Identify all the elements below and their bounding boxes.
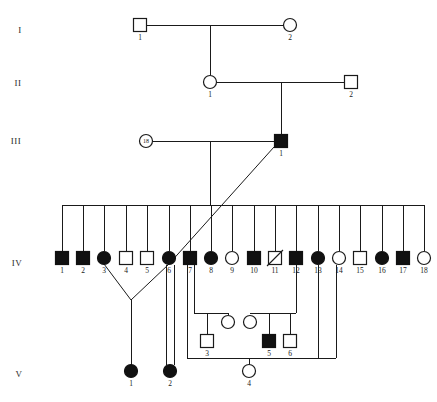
unaffected-male-symbol xyxy=(134,19,147,32)
affected-female-symbol xyxy=(98,252,111,265)
union-iv6-apex xyxy=(131,264,169,300)
individual-id-label: 1 xyxy=(129,379,133,388)
unaffected-male-symbol xyxy=(120,252,133,265)
individual-i-1[interactable]: 1 xyxy=(134,19,147,42)
affected-male-symbol xyxy=(397,252,410,265)
affected-male-symbol xyxy=(263,335,276,348)
individual-ii-2[interactable]: 2 xyxy=(345,76,358,99)
individual-iv-8[interactable]: 8 xyxy=(205,252,218,275)
affected-male-symbol xyxy=(248,252,261,265)
individual-iv-7[interactable]: 7 xyxy=(184,252,197,275)
unaffected-female-symbol xyxy=(243,365,256,378)
individual-id-label: 5 xyxy=(267,349,271,358)
affected-male-symbol xyxy=(184,252,197,265)
individual-id-label: 3 xyxy=(205,349,209,358)
individual-id-label: 16 xyxy=(378,266,386,275)
affected-female-symbol xyxy=(312,252,325,265)
individual-iv-13[interactable]: 13 xyxy=(312,252,325,275)
individual-symbols: 1212181123456789101112131415161718356124 xyxy=(56,19,431,388)
generation-labels: IIIIIIIVV xyxy=(11,25,23,379)
individual-id-label: 4 xyxy=(247,379,251,388)
individual-id-label: 12 xyxy=(292,266,300,275)
individual-iii-1[interactable]: 1 xyxy=(275,135,288,158)
individual-x-6[interactable]: 6 xyxy=(284,335,297,358)
individual-iv-18[interactable]: 18 xyxy=(418,252,431,275)
connection-lines xyxy=(62,25,424,365)
unaffected-female-symbol xyxy=(418,252,431,265)
individual-v-4[interactable]: 4 xyxy=(243,365,256,388)
individual-id-label: 2 xyxy=(288,33,292,42)
individual-i-2[interactable]: 2 xyxy=(284,19,297,42)
individual-id-label: 14 xyxy=(335,266,343,275)
individual-id-label: 5 xyxy=(145,266,149,275)
affected-female-symbol xyxy=(163,252,176,265)
unaffected-female-symbol xyxy=(204,76,217,89)
individual-id-label: 1 xyxy=(138,33,142,42)
unaffected-male-symbol xyxy=(354,252,367,265)
generation-label-i: I xyxy=(18,25,22,35)
individual-iv-2[interactable]: 2 xyxy=(77,252,90,275)
affected-male-symbol xyxy=(275,135,288,148)
affected-male-symbol xyxy=(56,252,69,265)
individual-x-s2[interactable] xyxy=(244,316,257,329)
individual-iv-17[interactable]: 17 xyxy=(397,252,410,275)
affected-female-symbol xyxy=(125,365,138,378)
individual-id-label: 1 xyxy=(60,266,64,275)
individual-id-label: 9 xyxy=(230,266,234,275)
generation-label-iv: IV xyxy=(12,258,23,268)
individual-iv-10[interactable]: 10 xyxy=(248,252,261,275)
individual-id-label: 6 xyxy=(167,266,171,275)
individual-x-3[interactable]: 3 xyxy=(201,335,214,358)
individual-v-1[interactable]: 1 xyxy=(125,365,138,388)
individual-id-label: 15 xyxy=(356,266,364,275)
individual-id-label: 1 xyxy=(208,90,212,99)
individual-id-label: 6 xyxy=(288,349,292,358)
affected-male-symbol xyxy=(77,252,90,265)
pedigree-chart: 1212181123456789101112131415161718356124… xyxy=(0,0,437,402)
individual-id-label: 11 xyxy=(271,266,278,275)
unaffected-male-symbol xyxy=(141,252,154,265)
individual-iv-12[interactable]: 12 xyxy=(290,252,303,275)
individual-id-label: 2 xyxy=(349,90,353,99)
generation-label-v: V xyxy=(16,369,23,379)
unaffected-male-symbol xyxy=(284,335,297,348)
affected-female-symbol xyxy=(376,252,389,265)
individual-iv-5[interactable]: 5 xyxy=(141,252,154,275)
individual-id-label: 4 xyxy=(124,266,128,275)
individual-iv-16[interactable]: 16 xyxy=(376,252,389,275)
unaffected-female-symbol xyxy=(333,252,346,265)
individual-iv-4[interactable]: 4 xyxy=(120,252,133,275)
individual-id-label: 2 xyxy=(81,266,85,275)
affected-female-symbol xyxy=(164,365,177,378)
individual-id-label: 13 xyxy=(314,266,322,275)
unaffected-female-symbol xyxy=(226,252,239,265)
individual-id-label: 8 xyxy=(209,266,213,275)
individual-id-label: 3 xyxy=(102,266,106,275)
generation-label-iii: III xyxy=(11,136,22,146)
individual-v-2[interactable]: 2 xyxy=(164,365,177,388)
individual-iv-14[interactable]: 14 xyxy=(333,252,346,275)
multiple-count-label: 18 xyxy=(143,138,149,144)
individual-iv-3[interactable]: 3 xyxy=(98,252,111,275)
affected-male-symbol xyxy=(290,252,303,265)
unaffected-male-symbol xyxy=(201,335,214,348)
individual-x-s1[interactable] xyxy=(222,316,235,329)
unaffected-male-symbol xyxy=(345,76,358,89)
unaffected-female-symbol xyxy=(244,316,257,329)
individual-iii-18[interactable]: 18 xyxy=(140,135,153,148)
individual-id-label: 7 xyxy=(188,266,192,275)
individual-iv-1[interactable]: 1 xyxy=(56,252,69,275)
pedigree-canvas: 1212181123456789101112131415161718356124… xyxy=(0,0,437,402)
individual-iv-15[interactable]: 15 xyxy=(354,252,367,275)
individual-x-5[interactable]: 5 xyxy=(263,335,276,358)
individual-iv-11[interactable]: 11 xyxy=(267,250,283,275)
individual-id-label: 1 xyxy=(279,149,283,158)
individual-id-label: 2 xyxy=(168,379,172,388)
individual-id-label: 17 xyxy=(399,266,407,275)
unaffected-female-symbol xyxy=(284,19,297,32)
individual-ii-1[interactable]: 1 xyxy=(204,76,217,99)
individual-id-label: 18 xyxy=(420,266,428,275)
generation-label-ii: II xyxy=(15,78,22,88)
individual-iv-9[interactable]: 9 xyxy=(226,252,239,275)
affected-female-symbol xyxy=(205,252,218,265)
